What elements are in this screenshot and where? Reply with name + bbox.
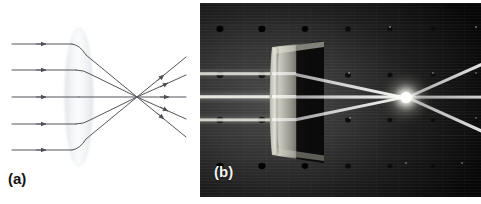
arrow-out-1	[157, 75, 164, 81]
lens-in-mount	[270, 41, 324, 163]
panel-a-ray-diagram: (a)	[0, 0, 200, 204]
figure-root: (a)	[0, 0, 481, 204]
ray-diagram-svg	[0, 0, 200, 204]
arrow-out-4	[160, 107, 168, 111]
panel-b-label: (b)	[214, 163, 233, 180]
lens-barrel-cavity	[296, 41, 324, 163]
focal-spot	[380, 72, 432, 124]
incoming-laser-beams	[200, 70, 275, 125]
panel-b-photograph: (b)	[200, 3, 481, 197]
arrow-out-5	[157, 113, 164, 119]
arrow-out-2	[160, 83, 168, 87]
incoming-ray-arrowheads	[36, 44, 46, 150]
panel-a-label: (a)	[8, 170, 26, 187]
photograph-svg	[200, 3, 481, 197]
